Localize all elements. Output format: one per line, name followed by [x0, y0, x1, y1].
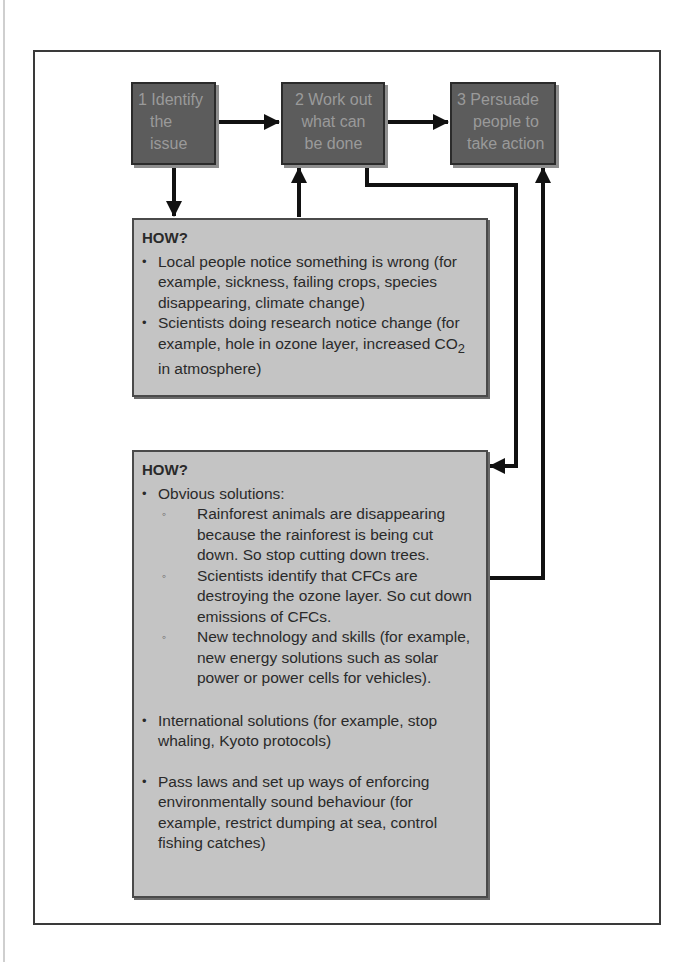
how-list: Local people notice something is wrong (…	[142, 252, 476, 380]
step-1-line-2: the	[138, 111, 210, 133]
sub-list-item: Scientists identify that CFCs are destro…	[142, 566, 476, 628]
list-item-text: Scientists doing research notice change …	[158, 314, 465, 377]
how-title: HOW?	[142, 228, 476, 249]
how-box-identify: HOW? Local people notice something is wr…	[132, 218, 488, 397]
sub-list-item: New technology and skills (for example, …	[142, 627, 476, 689]
sub-list: Rainforest animals are disappearing beca…	[142, 504, 476, 689]
how-list: Obvious solutions:	[142, 484, 476, 505]
list-item: Obvious solutions:	[142, 484, 476, 505]
step-3-line-1: 3 Persuade	[457, 89, 550, 111]
step-3-line-2: people to	[457, 111, 550, 133]
sub-list-item: Rainforest animals are disappearing beca…	[142, 504, 476, 566]
list-item: Pass laws and set up ways of enforcing e…	[142, 772, 476, 854]
list-item: Scientists doing research notice change …	[142, 313, 476, 380]
step-identify-issue: 1 Identify the issue	[131, 82, 216, 165]
step-persuade: 3 Persuade people to take action	[450, 82, 556, 165]
step-work-out: 2 Work out what can be done	[281, 82, 385, 165]
how-box-solutions: HOW? Obvious solutions: Rainforest anima…	[132, 450, 488, 898]
list-item: International solutions (for example, st…	[142, 711, 476, 752]
how-title: HOW?	[142, 460, 476, 481]
how-list: International solutions (for example, st…	[142, 711, 476, 854]
step-3-line-3: take action	[457, 133, 550, 155]
step-2-line-2: what can	[288, 111, 379, 133]
step-1-line-3: issue	[138, 133, 210, 155]
list-item: Local people notice something is wrong (…	[142, 252, 476, 314]
step-2-line-1: 2 Work out	[288, 89, 379, 111]
step-1-line-1: 1 Identify	[138, 89, 210, 111]
step-2-line-3: be done	[288, 133, 379, 155]
